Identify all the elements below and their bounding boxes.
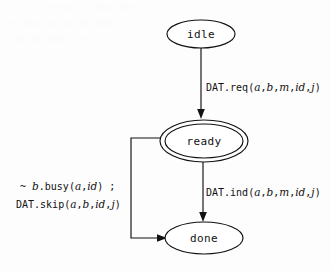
edge-label-ready-to-done: DAT.ind(a,b,m,id,j): [206, 186, 321, 198]
edge-ready-to-done-skip: [131, 138, 167, 242]
arrowhead-icon: [199, 212, 207, 222]
state-diagram: n nn n nnn nnn n nnn nn n nn nnnn n nn n…: [0, 0, 331, 271]
edge-label-idle-to-ready: DAT.req(a,b,m,id,j): [206, 81, 321, 93]
diagram-canvas: idle ready done DAT.req(a,b,m,id,j) DAT.…: [0, 0, 331, 271]
node-done-label: done: [190, 232, 218, 245]
node-idle-label: idle: [187, 28, 215, 41]
edge-label-skip-line1: ~ b.busy(a,id) ;: [20, 180, 115, 192]
node-done[interactable]: done: [165, 222, 243, 254]
edge-idle-to-ready: [197, 48, 205, 119]
node-idle[interactable]: idle: [167, 20, 235, 48]
edge-label-skip-line2: DAT.skip(a,b,id,j): [16, 198, 121, 210]
edge-ready-to-done-skip-line: [131, 138, 161, 238]
node-ready[interactable]: ready: [160, 120, 248, 162]
arrowhead-icon: [197, 109, 205, 119]
node-ready-label: ready: [186, 135, 221, 148]
